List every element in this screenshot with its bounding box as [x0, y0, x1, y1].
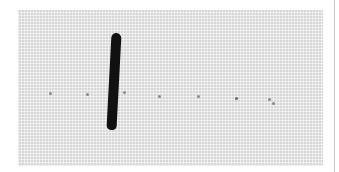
border-line: [334, 0, 335, 172]
dot: [272, 102, 275, 105]
dot: [197, 95, 200, 98]
dot: [268, 98, 271, 101]
fabric-photo: [18, 10, 323, 166]
dot: [49, 92, 52, 95]
dot: [235, 97, 238, 100]
dot: [158, 95, 161, 98]
dot: [123, 91, 126, 94]
dot: [86, 93, 89, 96]
